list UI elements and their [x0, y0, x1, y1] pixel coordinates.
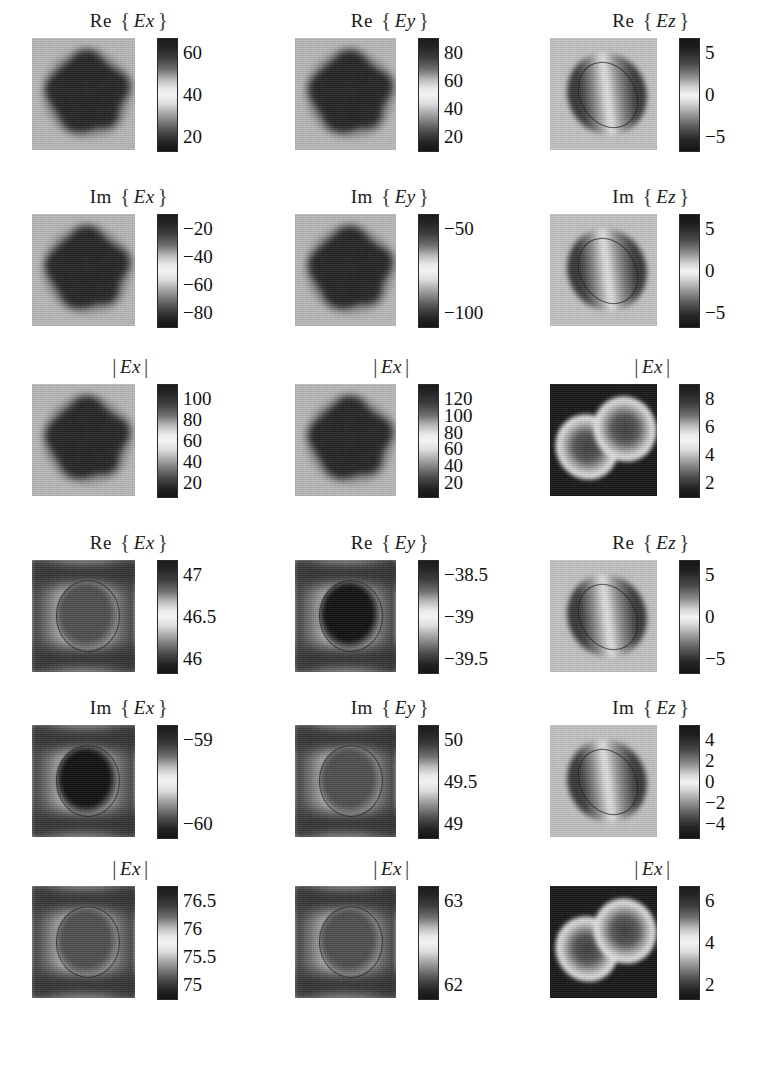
colorbar-tick: −20	[183, 219, 213, 238]
bracket-close-icon: }	[416, 695, 433, 719]
colorbar-tick: 0	[705, 607, 715, 626]
colorbar-tick: −2	[705, 793, 725, 812]
colorbar-tick: −50	[444, 219, 474, 238]
panel-r2c1: Im {Ex} −20−40−60−80	[0, 176, 261, 346]
panel-r1c1: Re {Ex} 604020	[0, 0, 261, 176]
colorbar	[418, 214, 439, 328]
panel-title-component: Ey	[395, 697, 416, 718]
colorbar-ticks: 10080604020	[183, 384, 261, 496]
colorbar	[679, 560, 700, 674]
panel-title: |Ex|	[261, 354, 522, 379]
panel-title: |Ex|	[522, 354, 783, 379]
bracket-open-icon: {	[640, 8, 657, 32]
panel-r6c1: |Ex| 76.57675.575	[0, 848, 261, 1037]
field-map-image	[550, 38, 657, 150]
panel-title-prefix: Im	[351, 697, 378, 718]
colorbar-tick: 40	[183, 85, 202, 104]
colorbar	[418, 560, 439, 674]
panel-title: |Ex|	[522, 856, 783, 881]
field-map-image	[295, 560, 396, 672]
panel-title-component: Ey	[395, 186, 416, 207]
colorbar-tick: 47	[183, 565, 202, 584]
colorbar-tick: 20	[183, 473, 202, 492]
colorbar-tick: 50	[444, 730, 463, 749]
colorbar-group: 5049.549	[418, 725, 522, 839]
colorbar-tick: 100	[183, 389, 212, 408]
colorbar-ticks: 642	[705, 886, 783, 998]
halftone-grain-overlay	[32, 725, 135, 837]
colorbar-tick: 49.5	[444, 772, 477, 791]
colorbar-tick: 46	[183, 649, 202, 668]
field-map-image	[295, 384, 396, 496]
bracket-close-icon: }	[676, 695, 693, 719]
panel-title-prefix: Re	[351, 532, 378, 553]
colorbar-ticks: 12010080604020	[444, 384, 522, 496]
colorbar-ticks: −38.5−39−39.5	[444, 560, 522, 672]
colorbar-tick: −5	[705, 127, 725, 146]
colorbar	[679, 725, 700, 839]
bracket-open-icon: {	[640, 184, 657, 208]
panel-r5c3: Im {Ez} 420−2−4	[522, 687, 783, 848]
panel-title-prefix: Im	[351, 186, 378, 207]
colorbar-tick: 49	[444, 814, 463, 833]
panel-r3c3: |Ex| 8642	[522, 346, 783, 522]
colorbar-ticks: −20−40−60−80	[183, 214, 261, 326]
panel-title: |Ex|	[0, 354, 261, 379]
colorbar-tick: 6	[705, 891, 715, 910]
halftone-grain-overlay	[550, 560, 657, 672]
panel-title-component: Ex	[381, 356, 402, 377]
colorbar-tick: −80	[183, 303, 213, 322]
colorbar	[418, 38, 439, 152]
colorbar-tick: 76	[183, 919, 202, 938]
colorbar-ticks: 50−5	[705, 560, 783, 672]
halftone-grain-overlay	[295, 214, 396, 326]
field-map-image	[550, 886, 657, 998]
colorbar-tick: −100	[444, 303, 483, 322]
panel-title-component: Ez	[656, 10, 676, 31]
colorbar-tick: 8	[705, 389, 715, 408]
halftone-grain-overlay	[32, 560, 135, 672]
panel-title-component: Ey	[395, 10, 416, 31]
colorbar-tick: 4	[705, 445, 715, 464]
bracket-close-icon: }	[155, 8, 172, 32]
colorbar-tick: 40	[183, 452, 202, 471]
colorbar-ticks: 76.57675.575	[183, 886, 261, 998]
field-map-image	[295, 886, 396, 998]
bracket-close-icon: }	[676, 184, 693, 208]
colorbar-tick: 75.5	[183, 947, 216, 966]
colorbar-group: 10080604020	[157, 384, 261, 498]
panel-title-component: Ez	[656, 186, 676, 207]
bracket-close-icon: |	[402, 856, 413, 880]
panel-title-prefix: Im	[90, 186, 117, 207]
panel-title: |Ex|	[261, 856, 522, 881]
panel-title-component: Ex	[134, 186, 155, 207]
panel-r4c2: Re {Ey} −38.5−39−39.5	[261, 522, 522, 687]
colorbar-ticks: 420−2−4	[705, 725, 783, 837]
bracket-close-icon: }	[416, 184, 433, 208]
bracket-close-icon: }	[155, 695, 172, 719]
halftone-grain-overlay	[295, 560, 396, 672]
halftone-grain-overlay	[550, 725, 657, 837]
bracket-open-icon: |	[631, 856, 642, 880]
halftone-grain-overlay	[32, 886, 135, 998]
halftone-grain-overlay	[32, 38, 135, 150]
panel-title-component: Ez	[656, 532, 676, 553]
field-map-image	[32, 725, 135, 837]
colorbar-ticks: 6362	[444, 886, 522, 998]
bracket-close-icon: }	[676, 8, 693, 32]
bracket-open-icon: {	[378, 695, 395, 719]
colorbar-ticks: 50−5	[705, 38, 783, 150]
panel-r6c3: |Ex| 642	[522, 848, 783, 1037]
field-map-image	[550, 214, 657, 326]
colorbar-tick: −4	[705, 814, 725, 833]
bracket-close-icon: }	[416, 530, 433, 554]
colorbar-ticks: 80604020	[444, 38, 522, 150]
panel-title: Im {Ex}	[0, 695, 261, 720]
bracket-open-icon: {	[378, 530, 395, 554]
colorbar-tick: 63	[444, 891, 463, 910]
colorbar-tick: 5	[705, 565, 715, 584]
colorbar-tick: 2	[705, 473, 715, 492]
panel-title-prefix: Im	[90, 697, 117, 718]
bracket-open-icon: |	[370, 354, 381, 378]
colorbar	[679, 38, 700, 152]
